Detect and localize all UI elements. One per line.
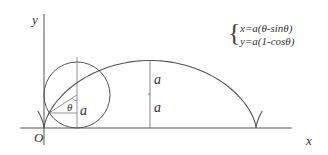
radius-label: a xyxy=(80,104,87,118)
origin-label: O xyxy=(34,131,43,144)
cycloid-diagram: y x O θ a a a { x=a(θ-sinθ) y=a(1-cosθ) xyxy=(0,0,328,155)
equation-y: y=a(1-cosθ) xyxy=(240,35,294,48)
equation-x: x=a(θ-sinθ) xyxy=(240,22,294,35)
cycloid-next-arch xyxy=(256,111,262,128)
equation-brace: { xyxy=(228,20,240,46)
radius-line xyxy=(49,95,77,113)
x-axis-label: x xyxy=(306,134,312,147)
parametric-equations: x=a(θ-sinθ) y=a(1-cosθ) xyxy=(240,22,294,48)
height-lower-label: a xyxy=(154,101,161,115)
y-axis-label: y xyxy=(32,13,38,26)
theta-arc xyxy=(72,98,77,101)
theta-label: θ xyxy=(67,102,72,113)
height-upper-label: a xyxy=(154,73,161,87)
cycloid-previous-arch xyxy=(38,111,44,128)
